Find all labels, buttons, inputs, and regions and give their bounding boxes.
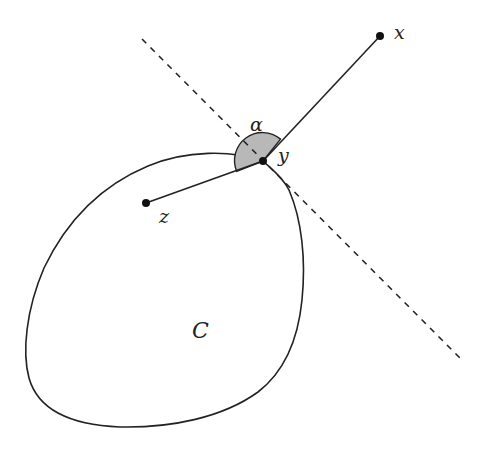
angle-alpha-sector [235, 133, 281, 172]
supporting-hyperplane-line [142, 39, 462, 360]
point-x-dot [376, 32, 384, 40]
label-set-c: C [192, 318, 209, 343]
convex-set-diagram: x y z α C [0, 0, 486, 453]
convex-set-boundary [26, 153, 304, 427]
label-alpha: α [250, 113, 263, 135]
point-y-dot [259, 157, 267, 165]
point-z-dot [142, 199, 150, 207]
segment-z-y [146, 161, 263, 203]
label-x: x [394, 21, 405, 43]
label-y: y [277, 144, 289, 166]
segment-y-x [263, 36, 380, 161]
label-z: z [158, 205, 170, 227]
